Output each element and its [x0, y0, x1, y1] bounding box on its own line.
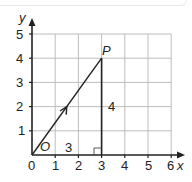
x-tick-0: 0: [28, 158, 35, 173]
x-tick-5: 5: [145, 158, 152, 173]
x-tick-2: 2: [75, 158, 82, 173]
y-axis-arrow-icon: [29, 18, 36, 26]
origin-label: O: [40, 139, 50, 154]
x-tick-6: 6: [167, 158, 174, 173]
x-tick-4: 4: [121, 158, 128, 173]
x-axis-label: x: [176, 158, 184, 173]
x-tick-labels: 0 1 2 3 4 5 6: [28, 158, 174, 173]
right-angle-marker: [94, 148, 102, 155]
x-tick-3: 3: [98, 158, 105, 173]
y-tick-4: 4: [16, 51, 23, 66]
y-tick-labels: 1 2 3 4 5: [16, 27, 25, 138]
y-axis: [29, 18, 36, 155]
y-tick-2: 2: [16, 99, 23, 114]
axis-ticks: [29, 34, 171, 158]
point-p-label: P: [102, 43, 111, 58]
vertical-length-label: 4: [108, 99, 115, 114]
y-axis-label: y: [18, 10, 27, 25]
coordinate-diagram: 0 1 2 3 4 5 6 1 2 3 4 5 y x P O 3 4: [0, 0, 192, 182]
y-tick-1: 1: [18, 123, 25, 138]
x-tick-1: 1: [52, 158, 59, 173]
horizontal-length-label: 3: [65, 140, 72, 155]
y-tick-3: 3: [16, 75, 23, 90]
y-tick-5: 5: [16, 27, 23, 42]
